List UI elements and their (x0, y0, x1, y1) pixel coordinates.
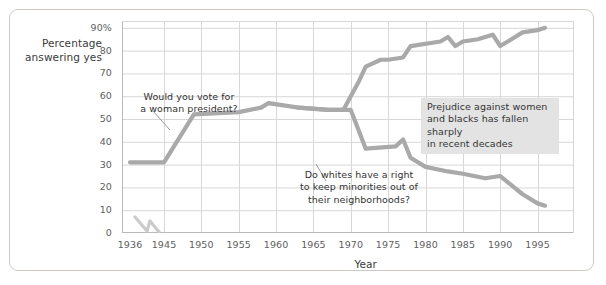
x-tick-1975: 1975 (368, 239, 408, 250)
y-tick-30: 30 (86, 159, 112, 170)
x-tick-1990: 1990 (480, 239, 520, 250)
x-tick-1970: 1970 (331, 239, 371, 250)
y-tick-50: 50 (86, 113, 112, 124)
x-tick-1950: 1950 (181, 239, 221, 250)
y-tick-10: 10 (86, 204, 112, 215)
y-tick-90pct: 90% (82, 22, 112, 33)
y-tick-60: 60 (86, 90, 112, 101)
x-tick-1955: 1955 (219, 239, 259, 250)
x-tick-1960: 1960 (256, 239, 296, 250)
x-tick-1980: 1980 (406, 239, 446, 250)
x-tick-1985: 1985 (443, 239, 483, 250)
x-tick-1965: 1965 (293, 239, 333, 250)
chart-figure: Percentageanswering yes 0102030405060708… (0, 0, 606, 285)
x-tick-1945: 1945 (144, 239, 184, 250)
annotation-prejudice-summary: Prejudice against women and blacks has f… (421, 98, 559, 154)
y-tick-80: 80 (86, 45, 112, 56)
y-tick-20: 20 (86, 181, 112, 192)
y-tick-70: 70 (86, 67, 112, 78)
y-tick-40: 40 (86, 136, 112, 147)
y-tick-0: 0 (86, 227, 112, 238)
x-tick-1995: 1995 (518, 239, 558, 250)
annotation-woman-president: Would you vote for a woman president? (137, 91, 241, 116)
x-axis-title: Year (346, 258, 386, 270)
annotation-whites-neighborhoods: Do whites have a right to keep minoritie… (300, 169, 418, 206)
